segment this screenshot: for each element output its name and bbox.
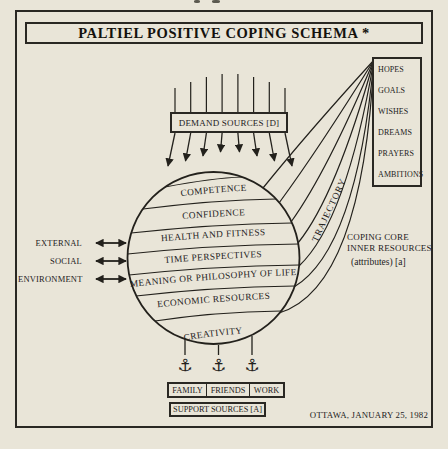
- inner-resources-box: HOPES GOALS WISHES DREAMS PRAYERS AMBITI…: [372, 57, 422, 187]
- inner-resource-item: PRAYERS: [378, 149, 419, 158]
- coping-core-caption: COPING CORE INNER RESOURCES: [347, 232, 432, 253]
- attributes-note: (attributes) [a]: [351, 257, 406, 267]
- external-label: EXTERNAL: [18, 238, 82, 248]
- outer-frame: [15, 10, 433, 428]
- page-title: PALTIEL POSITIVE COPING SCHEMA *: [78, 25, 370, 42]
- support-sources-label: SUPPORT SOURCES [A]: [173, 405, 262, 414]
- title-box: PALTIEL POSITIVE COPING SCHEMA *: [25, 22, 423, 44]
- inner-resource-item: GOALS: [378, 86, 419, 95]
- demand-sources-label: DEMAND SOURCES [D]: [179, 118, 280, 128]
- support-cell-work: WORK: [249, 384, 283, 396]
- support-cell-family: FAMILY: [169, 384, 206, 396]
- scan-artifact: [194, 0, 200, 3]
- date-stamp: OTTAWA, JANUARY 25, 1982: [270, 410, 428, 420]
- inner-resource-item: WISHES: [378, 107, 419, 116]
- coping-core-caption-line1: COPING CORE: [347, 232, 432, 243]
- paltiel-coping-schema-page: TRAJECTORY COMPETENCE CONFIDENCE HEALTH …: [0, 0, 448, 449]
- inner-resource-item: DREAMS: [378, 128, 419, 137]
- inner-resource-item: AMBITIONS: [378, 170, 419, 179]
- coping-core-caption-line2: INNER RESOURCES: [347, 243, 432, 254]
- environment-label: ENVIRONMENT: [18, 274, 82, 284]
- social-label: SOCIAL: [18, 256, 82, 266]
- inner-resource-item: HOPES: [378, 65, 419, 74]
- support-sources-box: SUPPORT SOURCES [A]: [169, 402, 266, 417]
- support-cell-friends: FRIENDS: [206, 384, 249, 396]
- support-cells-table: FAMILY FRIENDS WORK: [167, 382, 285, 398]
- scan-artifact: [212, 0, 220, 3]
- demand-sources-box: DEMAND SOURCES [D]: [170, 112, 288, 133]
